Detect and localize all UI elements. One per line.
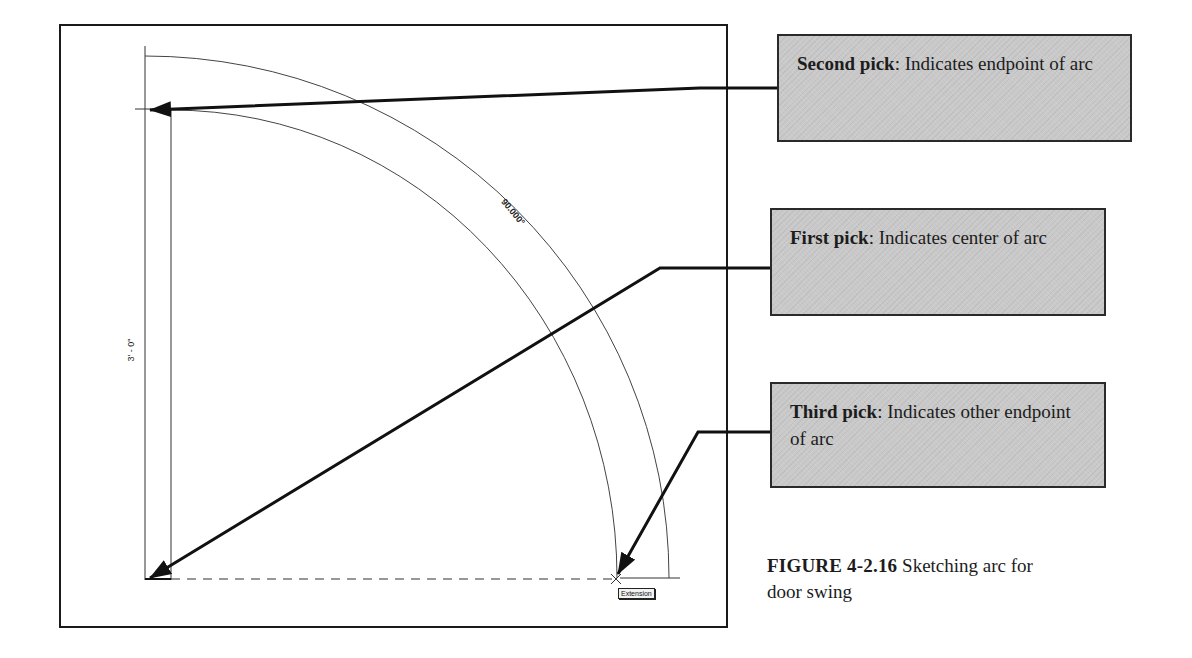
snap-tooltip: Extension xyxy=(618,588,655,599)
callout-title: First pick xyxy=(790,227,869,248)
angle-dimension-arc xyxy=(145,56,669,578)
callout-third-pick: Third pick: Indicates other endpoint of … xyxy=(770,382,1106,488)
callout-title: Second pick xyxy=(797,53,895,74)
callout-text: : Indicates endpoint of arc xyxy=(895,53,1093,74)
leader-third-pick xyxy=(618,432,770,574)
callout-first-pick: First pick: Indicates center of arc xyxy=(770,208,1106,316)
figure-number: FIGURE 4-2.16 xyxy=(767,555,897,576)
callout-second-pick: Second pick: Indicates endpoint of arc xyxy=(777,34,1132,142)
leader-second-pick xyxy=(150,88,777,110)
leader-first-pick xyxy=(150,268,770,578)
snap-marker-icon xyxy=(611,574,621,584)
dimension-label: 3' - 0" xyxy=(126,339,136,362)
figure-caption: FIGURE 4-2.16 Sketching arc for door swi… xyxy=(767,553,1067,605)
door-swing-arc xyxy=(171,110,617,578)
drawing-frame xyxy=(60,25,727,627)
callout-title: Third pick xyxy=(790,401,877,422)
callout-text: : Indicates center of arc xyxy=(869,227,1047,248)
